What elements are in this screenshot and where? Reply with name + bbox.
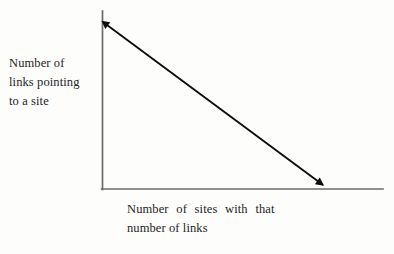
figure-screenshot: Number of links pointing to a site Numbe… <box>0 0 394 254</box>
y-axis-label-line-2: links pointing <box>9 73 80 92</box>
y-axis-label: Number of links pointing to a site <box>9 54 80 111</box>
y-axis-label-line-1: Number of <box>9 54 80 73</box>
x-axis-label-line-1: Number of sites with that <box>127 200 275 219</box>
x-axis-label-line-2: number of links <box>127 219 275 238</box>
trend-arrow <box>107 25 323 185</box>
y-axis-label-line-3: to a site <box>9 92 80 111</box>
x-axis-label: Number of sites with that number of link… <box>127 200 275 238</box>
